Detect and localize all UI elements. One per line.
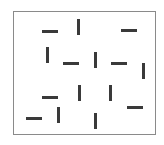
- vertical-bar: [109, 85, 112, 101]
- horizontal-bar: [42, 30, 58, 33]
- horizontal-bar: [63, 62, 79, 65]
- horizontal-bar: [111, 62, 127, 65]
- vertical-bar: [77, 19, 80, 35]
- vertical-bar: [78, 85, 81, 101]
- vertical-bar: [46, 47, 49, 63]
- horizontal-bar: [127, 106, 143, 109]
- horizontal-bar: [42, 96, 58, 99]
- vertical-bar: [57, 107, 60, 123]
- vertical-bar: [142, 63, 145, 79]
- horizontal-bar: [121, 29, 137, 32]
- horizontal-bar: [26, 117, 42, 120]
- vertical-bar: [94, 52, 97, 68]
- vertical-bar: [94, 113, 97, 129]
